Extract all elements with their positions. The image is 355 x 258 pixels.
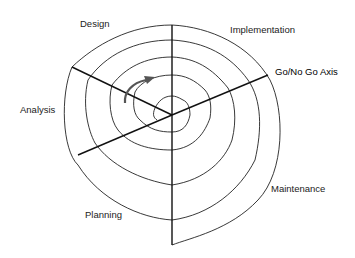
label-analysis: Analysis xyxy=(20,104,55,115)
spiral-diagram xyxy=(0,0,355,258)
label-implementation: Implementation xyxy=(230,24,295,35)
go-no-go-axis-line xyxy=(172,75,268,115)
label-go-no-go-axis: Go/No Go Axis xyxy=(275,66,338,77)
label-planning: Planning xyxy=(85,209,122,220)
label-design: Design xyxy=(80,18,110,29)
arrow-head-icon xyxy=(144,76,155,84)
label-maintenance: Maintenance xyxy=(271,183,325,194)
